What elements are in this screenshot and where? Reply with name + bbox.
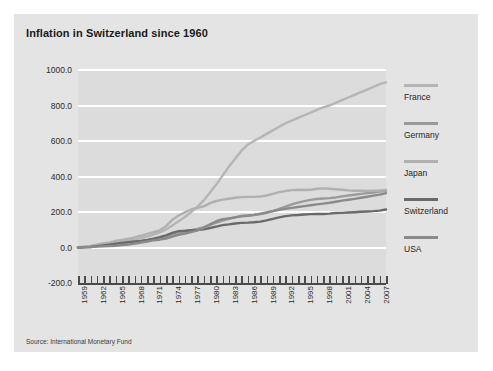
y-axis-tick-label: 600.0 [26, 137, 72, 146]
legend-label: Japan [404, 169, 470, 178]
x-axis-tick [386, 276, 388, 284]
legend-item[interactable]: Japan [404, 160, 470, 178]
x-axis-tick-label: 1965 [119, 286, 127, 304]
x-axis-tick-label: 1971 [156, 286, 164, 304]
x-axis-tick-label: 2007 [383, 286, 391, 304]
x-axis-tick-label: 1992 [288, 286, 296, 304]
x-axis-labels: 1959196219651968197119741977198019831986… [78, 286, 386, 326]
series-line [78, 210, 386, 248]
legend-item[interactable]: USA [404, 236, 470, 254]
y-axis-tick-label: -200.0 [26, 279, 72, 288]
x-axis-tick-label: 1986 [251, 286, 259, 304]
y-axis-tick-label: 200.0 [26, 208, 72, 217]
x-axis-line [78, 283, 386, 285]
x-axis-tick-label: 1983 [232, 286, 240, 304]
plot-area [78, 70, 386, 283]
legend-swatch [404, 84, 438, 87]
x-axis-tick-label: 1989 [270, 286, 278, 304]
legend-label: Switzerland [404, 207, 470, 216]
legend-swatch [404, 198, 438, 201]
legend-item[interactable]: Switzerland [404, 198, 470, 216]
page-title: Inflation in Switzerland since 1960 [26, 27, 208, 39]
x-axis-tick-label: 1998 [326, 286, 334, 304]
y-axis-tick-label: 1000.0 [26, 66, 72, 75]
legend-item[interactable]: France [404, 84, 470, 102]
x-axis-tick-label: 2001 [345, 286, 353, 304]
y-axis: 1000.0800.0600.0400.0200.00.0-200.0 [24, 70, 72, 283]
legend-label: France [404, 93, 470, 102]
x-axis-tick-label: 1962 [100, 286, 108, 304]
x-axis-tick-label: 1995 [307, 286, 315, 304]
y-axis-tick-label: 400.0 [26, 173, 72, 182]
y-axis-tick-label: 800.0 [26, 102, 72, 111]
y-axis-tick-label: 0.0 [26, 244, 72, 253]
x-axis-tick-label: 1968 [138, 286, 146, 304]
legend-label: Germany [404, 131, 470, 140]
series-lines [78, 70, 386, 283]
x-axis-tick-label: 2004 [364, 286, 372, 304]
legend-swatch [404, 122, 438, 125]
x-axis-tick-label: 1980 [213, 286, 221, 304]
x-axis-tick-label: 1977 [194, 286, 202, 304]
legend-item[interactable]: Germany [404, 122, 470, 140]
chart-page: Inflation in Switzerland since 1960 1000… [0, 0, 493, 371]
x-axis-tick-label: 1974 [175, 286, 183, 304]
x-axis-tick-label: 1959 [81, 286, 89, 304]
source-note: Source: International Monetary Fund [26, 338, 132, 345]
legend-label: USA [404, 245, 470, 254]
legend-swatch [404, 236, 438, 239]
legend: FranceGermanyJapanSwitzerlandUSA [404, 84, 470, 274]
series-line [78, 82, 386, 247]
legend-swatch [404, 160, 438, 163]
